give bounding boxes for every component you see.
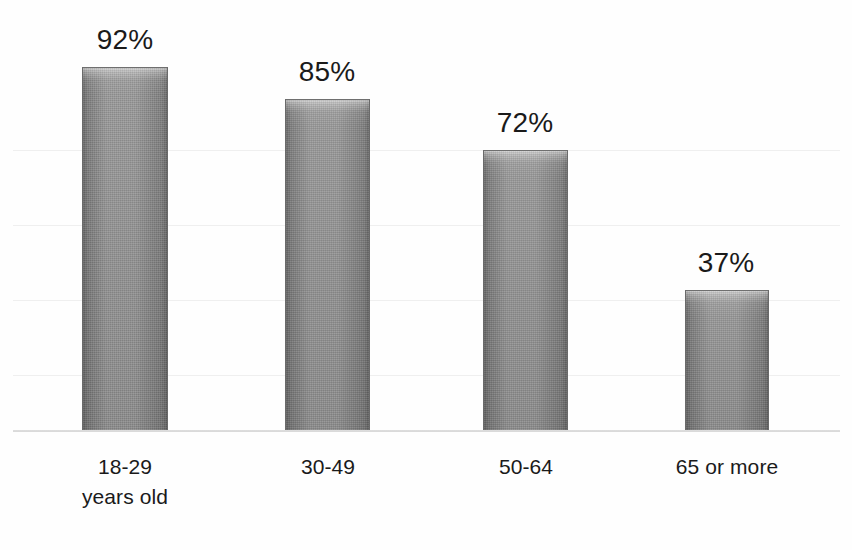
bar-18-29 <box>82 67 168 430</box>
category-label-18-29: 18-29 years old <box>45 452 205 512</box>
bar-50-64 <box>483 150 568 430</box>
bar-value-label: 72% <box>465 108 585 138</box>
category-label-65-or-more: 65 or more <box>647 452 807 482</box>
category-label-line2: years old <box>45 482 205 512</box>
bar-30-49 <box>285 99 370 430</box>
category-label-line1: 65 or more <box>676 455 779 478</box>
x-axis-line <box>13 430 840 432</box>
category-label-line1: 30-49 <box>301 455 355 478</box>
bar-chart: 92% 18-29 years old 85% 30-49 72% 50-64 … <box>0 0 852 550</box>
bar-65-or-more <box>685 290 769 430</box>
category-label-50-64: 50-64 <box>446 452 606 482</box>
category-label-line1: 18-29 <box>98 455 152 478</box>
bar-value-label: 92% <box>65 25 185 55</box>
category-label-line1: 50-64 <box>499 455 553 478</box>
bar-value-label: 85% <box>267 57 387 87</box>
category-label-30-49: 30-49 <box>248 452 408 482</box>
bar-value-label: 37% <box>666 248 786 278</box>
